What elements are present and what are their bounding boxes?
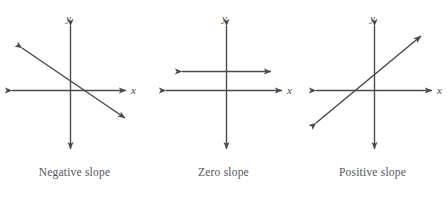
slope-figure: y x Negative slope y x Zero slope [0,0,447,200]
caption-positive-slope: Positive slope [298,166,447,178]
x-axis-label: x [130,84,136,96]
y-axis-label: y [65,12,71,24]
positive-slope-diagram: y x [298,0,447,166]
negative-slope-diagram: y x [0,0,149,166]
panel-zero-slope: y x Zero slope [149,0,298,200]
caption-zero-slope: Zero slope [149,166,298,178]
zero-slope-diagram: y x [149,0,298,166]
caption-negative-slope: Negative slope [0,166,149,178]
panel-positive-slope: y x Positive slope [298,0,447,200]
slope-line-positive [316,36,421,123]
panel-negative-slope: y x Negative slope [0,0,149,200]
slope-line-negative [22,48,125,118]
y-axis-label: y [369,12,375,24]
y-axis-label: y [221,12,227,24]
x-axis-label: x [436,84,442,96]
x-axis-label: x [286,84,292,96]
